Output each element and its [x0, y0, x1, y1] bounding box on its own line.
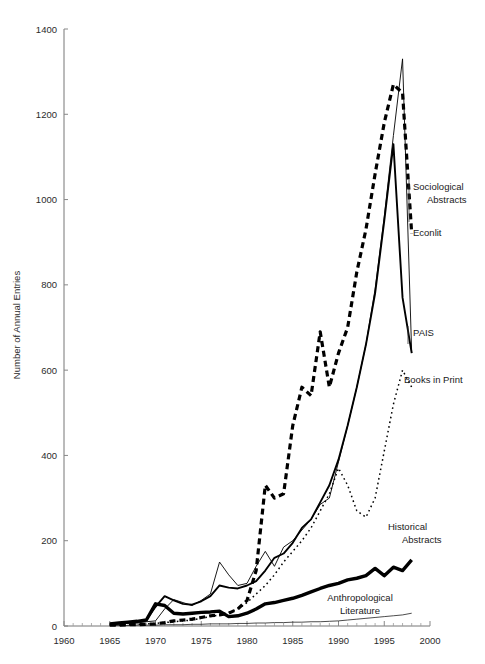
- y-tick-label: 400: [41, 450, 57, 461]
- series-label-line: PAIS: [413, 327, 434, 338]
- x-tick-label: 1975: [191, 635, 212, 646]
- y-axis-title: Number of Annual Entries: [11, 271, 22, 380]
- series-label-books-in-print: Books in Print: [404, 374, 463, 385]
- x-tick-label: 1965: [99, 635, 120, 646]
- x-tick-label: 1985: [282, 635, 303, 646]
- series-label-line: Abstracts: [427, 194, 467, 205]
- x-tick-label: 1980: [236, 635, 257, 646]
- series-label-line: Books in Print: [404, 374, 463, 385]
- x-tick-label: 1970: [145, 635, 166, 646]
- x-tick-label: 1990: [328, 635, 349, 646]
- series-label-line: Abstracts: [402, 534, 442, 545]
- series-label-line: Literature: [340, 605, 380, 616]
- y-tick-label: 600: [41, 365, 57, 376]
- y-tick-label: 1200: [36, 109, 57, 120]
- y-tick-label: 1400: [36, 24, 57, 35]
- y-tick-label: 1000: [36, 194, 57, 205]
- y-tick-label: 0: [52, 621, 57, 632]
- y-tick-label: 800: [41, 279, 57, 290]
- series-label-line: Econlit: [413, 227, 442, 238]
- x-tick-label: 1995: [374, 635, 395, 646]
- x-tick-label: 1960: [53, 635, 74, 646]
- series-label-pais: PAIS: [413, 327, 434, 338]
- chart-container: 0200400600800100012001400 19601965197019…: [0, 0, 485, 664]
- series-label-line: Anthropological: [327, 592, 393, 603]
- series-label-econlit: Econlit: [413, 227, 442, 238]
- series-label-line: Historical: [388, 521, 427, 532]
- line-chart: 0200400600800100012001400 19601965197019…: [0, 0, 485, 664]
- x-tick-label: 2000: [419, 635, 440, 646]
- y-tick-label: 200: [41, 535, 57, 546]
- series-label-line: Sociological: [413, 181, 464, 192]
